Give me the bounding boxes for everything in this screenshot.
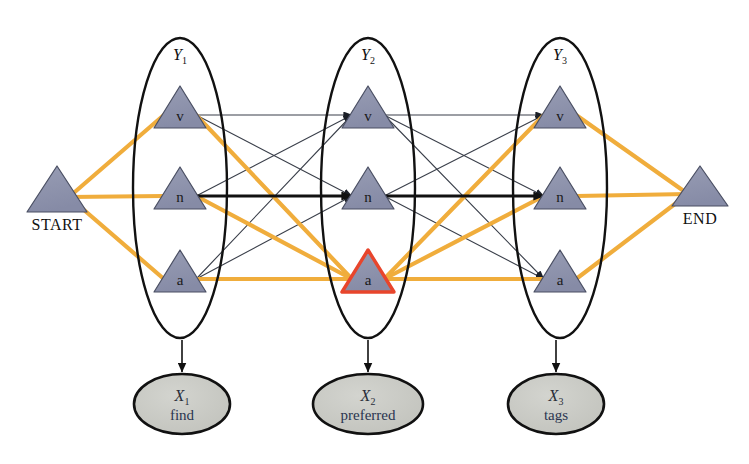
state-label-v2: v: [364, 108, 372, 124]
terminal-label-start: START: [32, 216, 83, 233]
plate-label-Y3: Y3: [553, 46, 567, 66]
observed-word-X3: tags: [544, 407, 568, 423]
state-label-v1: v: [176, 108, 184, 124]
observed-node-X2[interactable]: [313, 374, 423, 434]
observed-var-subscript: 1: [184, 396, 189, 407]
plate-label-subscript: 1: [182, 55, 187, 66]
edge-start-to-n1: [69, 196, 164, 197]
observed-nodes: X1findX2preferredX3tags: [134, 374, 604, 434]
plate-label-subscript: 3: [562, 55, 567, 66]
edge-n3-to-end: [576, 194, 688, 196]
state-nodes: vnavnavna: [154, 86, 586, 292]
state-label-a3: a: [557, 272, 564, 288]
emission-arrows: [182, 340, 556, 372]
observed-word-X2: preferred: [341, 407, 396, 423]
plate-label-Y1: Y1: [173, 46, 187, 66]
observed-var-subscript: 2: [370, 396, 375, 407]
plate-label-Y2: Y2: [361, 46, 375, 66]
state-label-n3: n: [556, 189, 564, 205]
terminal-node-end[interactable]: [672, 166, 728, 206]
observed-node-X3[interactable]: [508, 374, 604, 434]
crf-lattice-diagram: Y1Y2Y3 vnavnavna STARTEND X1findX2prefer…: [0, 0, 749, 464]
state-label-v3: v: [556, 108, 564, 124]
observed-node-X1[interactable]: [134, 374, 230, 434]
state-label-n2: n: [364, 189, 372, 205]
observed-word-X1: find: [170, 407, 195, 423]
terminal-label-end: END: [683, 210, 717, 227]
observed-var-subscript: 3: [558, 396, 563, 407]
diagram-canvas: Y1Y2Y3 vnavnavna STARTEND X1findX2prefer…: [0, 0, 749, 464]
state-label-a2: a: [365, 272, 372, 288]
state-label-a1: a: [177, 272, 184, 288]
plate-label-subscript: 2: [370, 55, 375, 66]
edge-start-to-v1: [69, 115, 164, 197]
edge-a3-to-end: [576, 194, 688, 279]
edge-v3-to-end: [576, 115, 688, 194]
state-label-n1: n: [176, 189, 184, 205]
